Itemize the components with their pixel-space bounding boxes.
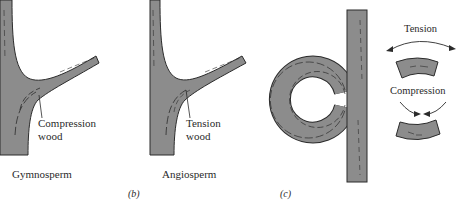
panel-b-letter: (b) bbox=[128, 188, 140, 200]
coiled-stem-illustration bbox=[270, 10, 367, 182]
compression-label: Compression bbox=[390, 85, 446, 96]
tension-label: Tension bbox=[404, 23, 438, 34]
panel-c-letter: (c) bbox=[280, 188, 292, 200]
compression-wood-label-line2: wood bbox=[38, 130, 63, 142]
tension-wood-label-line2: wood bbox=[186, 130, 211, 142]
compression-wood-label: Compression bbox=[38, 117, 97, 129]
angiosperm-caption: Angiosperm bbox=[162, 168, 217, 180]
vertical-stem bbox=[347, 10, 367, 182]
tension-wood-label: Tension bbox=[186, 117, 221, 129]
tension-wood-segment bbox=[396, 58, 438, 78]
reaction-wood-diagram: Compression wood Gymnosperm (b) Tension … bbox=[0, 0, 460, 209]
compression-wood-segment bbox=[396, 120, 440, 140]
tension-arrow bbox=[390, 41, 452, 50]
gymnosperm-caption: Gymnosperm bbox=[12, 168, 72, 180]
